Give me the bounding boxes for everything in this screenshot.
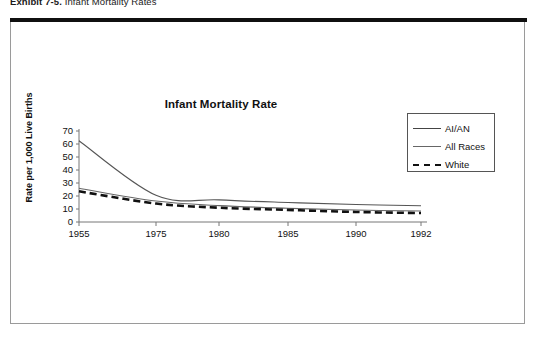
svg-text:60: 60 xyxy=(62,138,73,149)
exhibit-title: Infant Mortality Rates xyxy=(65,0,157,7)
svg-text:30: 30 xyxy=(62,177,73,188)
svg-text:50: 50 xyxy=(62,151,73,162)
svg-text:1955: 1955 xyxy=(68,228,89,239)
svg-text:10: 10 xyxy=(62,203,73,214)
plot-area: 010203040506070195519751980198519901992 xyxy=(11,22,526,324)
svg-text:1992: 1992 xyxy=(410,228,431,239)
svg-text:1975: 1975 xyxy=(145,228,166,239)
legend-dashed-line-icon xyxy=(413,159,441,169)
exhibit-number: Exhibit 7-5. xyxy=(10,0,62,7)
svg-text:1990: 1990 xyxy=(345,228,366,239)
legend-label: All Races xyxy=(441,141,485,152)
svg-text:1980: 1980 xyxy=(208,228,229,239)
exhibit-page: Exhibit 7-5. Infant Mortality Rates Infa… xyxy=(0,0,538,341)
legend-label: White xyxy=(441,159,469,170)
legend-item-white: White xyxy=(408,155,494,173)
svg-text:1985: 1985 xyxy=(277,228,298,239)
infant-mortality-chart: Infant Mortality Rate Rate per 1,000 Liv… xyxy=(11,22,526,324)
svg-text:0: 0 xyxy=(68,216,73,227)
exhibit-header: Exhibit 7-5. Infant Mortality Rates xyxy=(10,0,157,7)
legend-item-all-races: All Races xyxy=(408,137,494,155)
chart-legend: AI/AN All Races White xyxy=(407,113,495,172)
legend-line-icon xyxy=(413,123,441,133)
svg-text:40: 40 xyxy=(62,164,73,175)
legend-line-icon xyxy=(413,141,441,151)
svg-text:20: 20 xyxy=(62,190,73,201)
chart-series xyxy=(79,141,421,213)
legend-item-aian: AI/AN xyxy=(408,119,494,137)
svg-text:70: 70 xyxy=(62,125,73,136)
chart-axes xyxy=(76,129,427,226)
chart-panel: Infant Mortality Rate Rate per 1,000 Liv… xyxy=(10,22,525,324)
legend-label: AI/AN xyxy=(441,123,470,134)
